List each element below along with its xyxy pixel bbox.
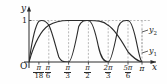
- leader-y2: [142, 30, 148, 32]
- tick-denominator: 18: [33, 72, 44, 80]
- curve-label-y1-sub: 1: [154, 51, 158, 57]
- x-tick-label-pi-3: π 3: [64, 65, 71, 80]
- curve-label-y1: y1: [149, 47, 157, 57]
- x-tick-label-pi-6: π 6: [45, 65, 52, 80]
- x-tick-label-pi-2: π 2: [84, 65, 91, 80]
- tick-denominator: 6: [125, 72, 131, 80]
- x-tick-label-5pi-6: 5π 6: [122, 65, 133, 80]
- curve-label-y2: y2: [149, 26, 157, 36]
- curve-label-y2-sub: 2: [154, 30, 158, 36]
- tick-numerator: π: [45, 65, 52, 72]
- leader-y1: [142, 51, 148, 53]
- tick-denominator: 2: [84, 72, 90, 80]
- tick-numerator: π: [84, 65, 91, 72]
- x-tick-label-2pi-3: 2π 3: [103, 65, 114, 80]
- tick-numerator: π: [36, 65, 43, 72]
- curve-y1: [29, 20, 142, 62]
- x-axis-label: x: [152, 63, 157, 72]
- math-figure: y x O 1 π 18 π 6 π 3 π 2 2π 3 5π 6 π y2 …: [0, 0, 167, 84]
- tick-denominator: 3: [64, 72, 70, 80]
- callout-leaders: [142, 30, 148, 53]
- y-unit-label: 1: [22, 17, 27, 25]
- tick-numerator: 2π: [103, 65, 114, 72]
- x-tick-label-pi: π: [140, 65, 145, 73]
- tick-numerator: 5π: [122, 65, 133, 72]
- tick-denominator: 6: [45, 72, 51, 80]
- y-axis-label: y: [21, 4, 26, 13]
- y-axis-arrow: [27, 6, 31, 12]
- origin-label: O: [20, 62, 27, 71]
- x-tick-label-pi-18: π 18: [33, 65, 44, 80]
- tick-numerator: π: [64, 65, 71, 72]
- vertical-gridlines: [49, 21, 142, 63]
- tick-denominator: 3: [105, 72, 111, 80]
- curve-y2: [29, 20, 142, 62]
